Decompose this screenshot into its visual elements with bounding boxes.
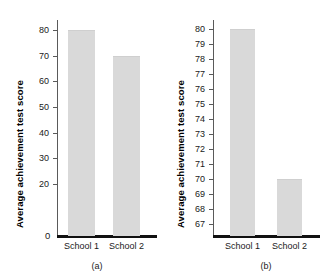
y-axis-tick — [53, 184, 57, 185]
y-axis-zero-label-a: 0 — [45, 231, 50, 240]
y-axis-tick — [53, 158, 57, 159]
y-axis-tick-label: 75 — [179, 100, 205, 109]
y-axis-tick — [209, 134, 213, 135]
y-axis-line-b — [213, 20, 214, 236]
y-axis-tick — [53, 107, 57, 108]
x-axis-category-label: School 1 — [218, 241, 268, 251]
y-axis-tick-label: 79 — [179, 40, 205, 49]
y-axis-tick — [53, 56, 57, 57]
y-axis-tick-label: 60 — [23, 77, 49, 86]
y-axis-tick-label: 70 — [23, 52, 49, 61]
y-axis-tick-label: 69 — [179, 190, 205, 199]
y-axis-tick — [53, 30, 57, 31]
y-axis-tick-label: 68 — [179, 205, 205, 214]
y-axis-tick — [209, 29, 213, 30]
bar — [68, 30, 95, 236]
y-axis-tick — [53, 81, 57, 82]
y-axis-tick-label: 73 — [179, 130, 205, 139]
y-axis-tick — [209, 164, 213, 165]
panel-caption-b: (b) — [251, 261, 281, 271]
y-axis-tick-label: 76 — [179, 85, 205, 94]
chart-panel-a: Average achievement test score 203040506… — [0, 0, 163, 278]
y-axis-tick — [53, 133, 57, 134]
y-axis-tick-label: 80 — [179, 25, 205, 34]
y-axis-tick — [209, 179, 213, 180]
y-axis-tick-label: 30 — [23, 154, 49, 163]
y-axis-tick-label: 50 — [23, 103, 49, 112]
y-axis-tick — [209, 44, 213, 45]
figure-root: Average achievement test score 203040506… — [0, 0, 326, 278]
x-axis-category-label: School 1 — [57, 241, 107, 251]
y-axis-tick — [209, 224, 213, 225]
y-axis-tick — [209, 59, 213, 60]
chart-panel-b: Average achievement test score 676869707… — [163, 0, 326, 278]
y-axis-tick — [209, 119, 213, 120]
y-axis-tick-label: 72 — [179, 145, 205, 154]
y-axis-tick — [209, 209, 213, 210]
y-axis-tick-label: 67 — [179, 220, 205, 229]
y-axis-tick-label: 40 — [23, 129, 49, 138]
y-axis-tick — [209, 149, 213, 150]
y-axis-line-a — [57, 20, 58, 236]
y-axis-tick-label: 77 — [179, 70, 205, 79]
y-axis-tick-label: 78 — [179, 55, 205, 64]
y-axis-tick-label: 20 — [23, 180, 49, 189]
y-axis-tick — [209, 74, 213, 75]
y-axis-tick-label: 74 — [179, 115, 205, 124]
y-axis-tick — [209, 89, 213, 90]
bar — [230, 29, 255, 236]
panel-caption-a: (a) — [82, 261, 112, 271]
y-axis-tick-label: 80 — [23, 26, 49, 35]
bar — [277, 179, 302, 236]
y-axis-tick-label: 71 — [179, 160, 205, 169]
y-axis-tick-label: 70 — [179, 175, 205, 184]
y-axis-tick — [209, 104, 213, 105]
x-axis-category-label: School 2 — [265, 241, 315, 251]
bar — [113, 56, 140, 236]
y-axis-tick — [209, 194, 213, 195]
x-axis-category-label: School 2 — [102, 241, 152, 251]
